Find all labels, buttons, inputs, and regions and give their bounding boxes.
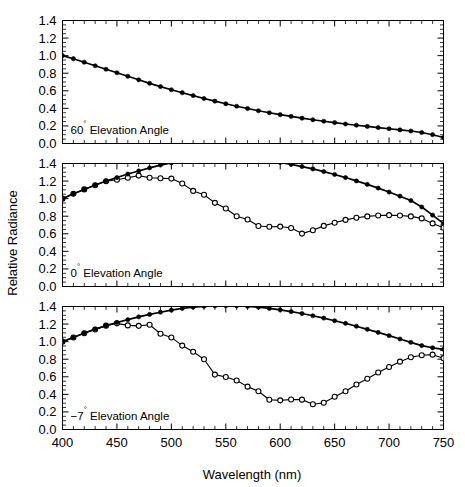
data-point-model (256, 109, 260, 113)
data-point-model (343, 175, 347, 179)
data-point-model (93, 183, 97, 187)
data-point-measured (310, 402, 315, 407)
data-point-measured (212, 372, 217, 377)
data-point-model (420, 344, 424, 348)
data-point-model (278, 308, 282, 312)
y-tick-label: 1.2 (38, 317, 56, 332)
y-tick-label: 0.8 (38, 66, 56, 81)
y-tick-label: 0.4 (38, 387, 56, 402)
data-point-model (158, 310, 162, 314)
x-tick-label: 750 (433, 435, 455, 450)
data-point-model (322, 169, 326, 173)
y-tick-label: 1.2 (38, 31, 56, 46)
data-point-model (387, 334, 391, 338)
data-point-measured (299, 397, 304, 402)
data-point-model (147, 312, 151, 316)
data-point-measured (212, 200, 217, 205)
data-point-model (71, 192, 75, 196)
data-point-measured (158, 331, 163, 336)
data-point-measured (387, 213, 392, 218)
data-point-measured (191, 188, 196, 193)
data-point-model (289, 114, 293, 118)
data-point-model (115, 71, 119, 75)
data-point-measured (278, 398, 283, 403)
figure-container: 0.00.20.40.60.81.01.21.460° Elevation An… (0, 0, 465, 487)
data-point-measured (397, 359, 402, 364)
data-point-model (354, 179, 358, 183)
data-point-model (420, 130, 424, 134)
x-tick-label: 550 (215, 435, 237, 450)
data-point-model (158, 84, 162, 88)
data-point-model (354, 324, 358, 328)
data-point-model (235, 104, 239, 108)
data-point-measured (289, 397, 294, 402)
data-point-measured (343, 389, 348, 394)
x-axis-title: Wavelength (nm) (203, 467, 302, 482)
data-point-model (343, 321, 347, 325)
data-point-measured (354, 215, 359, 220)
data-point-model (137, 78, 141, 82)
y-tick-label: 0.4 (38, 101, 56, 116)
data-point-measured (397, 213, 402, 218)
data-point-model (376, 186, 380, 190)
data-point-model (420, 205, 424, 209)
data-point-model (365, 124, 369, 128)
x-tick-label: 600 (269, 435, 291, 450)
data-point-measured (169, 176, 174, 181)
data-point-model (147, 166, 151, 170)
data-point-measured (245, 384, 250, 389)
y-tick-label: 0.8 (38, 209, 56, 224)
y-tick-label: 0.0 (38, 279, 56, 294)
data-point-measured (299, 231, 304, 236)
data-point-model (376, 126, 380, 130)
data-point-measured (365, 376, 370, 381)
data-point-model (343, 122, 347, 126)
data-point-model (431, 213, 435, 217)
y-tick-label: 1.4 (38, 156, 56, 171)
x-tick-label: 450 (106, 435, 128, 450)
y-tick-label: 0.6 (38, 83, 56, 98)
data-point-measured (408, 214, 413, 219)
data-point-model (202, 96, 206, 100)
data-point-measured (158, 176, 163, 181)
data-point-measured (419, 353, 424, 358)
data-point-measured (256, 389, 261, 394)
data-point-measured (321, 400, 326, 405)
data-point-model (333, 319, 337, 323)
data-point-model (169, 88, 173, 92)
y-tick-label: 1.0 (38, 191, 56, 206)
data-point-model (387, 190, 391, 194)
data-point-measured (387, 364, 392, 369)
y-tick-label: 0.6 (38, 226, 56, 241)
data-point-measured (310, 228, 315, 233)
data-point-model (409, 198, 413, 202)
data-point-measured (180, 181, 185, 186)
data-point-model (322, 119, 326, 123)
data-point-measured (245, 217, 250, 222)
y-tick-label: 1.0 (38, 334, 56, 349)
y-tick-label: 1.4 (38, 13, 56, 28)
data-point-model (300, 164, 304, 168)
data-point-measured (267, 224, 272, 229)
data-point-model (333, 120, 337, 124)
data-point-measured (147, 175, 152, 180)
y-tick-label: 0.0 (38, 136, 56, 151)
data-point-model (333, 172, 337, 176)
y-tick-label: 0.8 (38, 352, 56, 367)
y-tick-label: 0.2 (38, 118, 56, 133)
y-tick-label: 0.2 (38, 261, 56, 276)
data-point-model (82, 187, 86, 191)
data-point-model (126, 172, 130, 176)
data-point-model (398, 337, 402, 341)
data-point-measured (267, 397, 272, 402)
data-point-model (93, 327, 97, 331)
data-point-model (104, 179, 108, 183)
y-tick-label: 0.4 (38, 244, 56, 259)
data-point-measured (332, 394, 337, 399)
data-point-measured (202, 357, 207, 362)
data-point-measured (419, 216, 424, 221)
data-point-model (409, 129, 413, 133)
data-point-model (311, 314, 315, 318)
multi-panel-spectrum-chart: 0.00.20.40.60.81.01.21.460° Elevation An… (0, 0, 465, 487)
data-point-measured (202, 192, 207, 197)
